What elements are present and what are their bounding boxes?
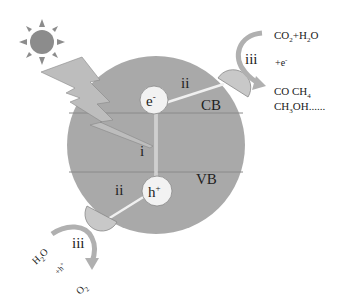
- oxidation-product: O2: [74, 281, 92, 299]
- reduction-products-line2: CH3OH......: [274, 100, 325, 115]
- step-ii-hole-label: ii: [115, 182, 123, 198]
- photocatalysis-diagram: e- h+ CB VB i ii ii iii iii CO2+H2O +e- …: [0, 0, 344, 303]
- reduction-products-line1: CO CH4: [274, 85, 311, 100]
- sun-icon: [19, 19, 65, 65]
- step-iii-oxidation-label: iii: [72, 235, 85, 251]
- vb-label: VB: [196, 171, 217, 187]
- reduction-reagent: +e-: [275, 56, 288, 68]
- reduction-reactants: CO2+H2O: [274, 29, 318, 44]
- oxidation-reactant: H2O: [30, 246, 53, 269]
- step-ii-electron-label: ii: [181, 75, 189, 91]
- oxidation-reagent: +h+: [52, 260, 68, 276]
- cb-label: CB: [201, 97, 221, 113]
- step-i-label: i: [140, 143, 144, 159]
- step-iii-reduction-label: iii: [245, 51, 258, 67]
